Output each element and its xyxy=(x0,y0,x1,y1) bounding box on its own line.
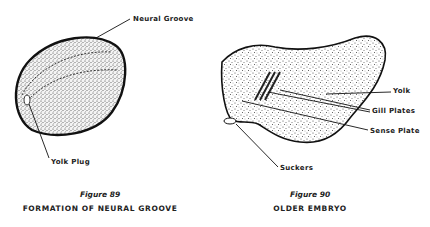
label-suckers: Suckers xyxy=(280,164,313,172)
figure-90-embryo xyxy=(222,36,386,142)
figure-89-caption: FORMATION OF NEURAL GROOVE xyxy=(0,204,200,213)
neural-groove-leader xyxy=(96,19,130,38)
figure-89-number: Figure 89 xyxy=(0,190,200,199)
figure-89-embryo xyxy=(16,37,125,134)
label-gill-plates: Gill Plates xyxy=(372,107,415,115)
figure-90-caption: OLDER EMBRYO xyxy=(210,204,410,213)
label-yolk-plug: Yolk Plug xyxy=(51,158,90,166)
yolk-plug-marker xyxy=(24,95,30,105)
figure-90-number: Figure 90 xyxy=(210,190,410,199)
label-neural-groove: Neural Groove xyxy=(133,15,194,23)
label-yolk: Yolk xyxy=(393,87,411,95)
label-sense-plate: Sense Plate xyxy=(370,127,420,135)
